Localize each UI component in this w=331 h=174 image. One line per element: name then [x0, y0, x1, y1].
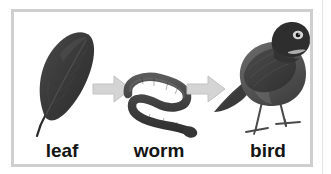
stage-label-leaf: leaf — [20, 140, 104, 162]
page-root: leaf worm bird — [0, 0, 331, 174]
leaf-illustration — [20, 24, 102, 144]
page-edge-rule — [322, 0, 323, 174]
bird-illustration — [210, 16, 310, 144]
figure-frame: leaf worm bird — [11, 9, 313, 167]
stage-label-bird: bird — [226, 140, 310, 162]
figure-canvas: leaf worm bird — [14, 12, 310, 164]
stage-label-worm: worm — [114, 140, 204, 162]
